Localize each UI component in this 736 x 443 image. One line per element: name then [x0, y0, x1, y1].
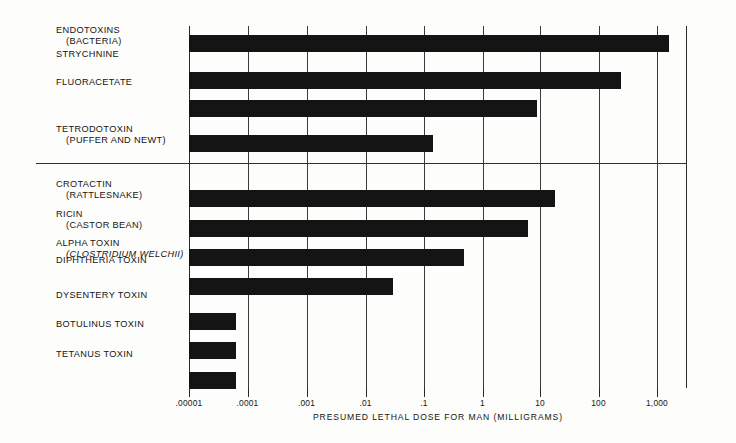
x-ticklabel-2: .001 — [298, 398, 315, 408]
x-ticklabel-3: .01 — [359, 398, 371, 408]
x-ticklabel-1: .0001 — [237, 398, 259, 408]
x-tick-7 — [599, 388, 600, 397]
bar-alpha-toxin — [189, 249, 464, 266]
x-tick-0 — [189, 388, 190, 397]
group-divider-line — [36, 163, 687, 164]
x-ticklabel-7: 100 — [591, 398, 606, 408]
bar-tetanus-toxin — [189, 372, 236, 389]
x-tick-6 — [540, 388, 541, 397]
category-label-column: ENDOTOXINS(BACTERIA)STRYCHNINEFLUORACETA… — [0, 0, 186, 443]
x-tick-4 — [424, 388, 425, 397]
plot-area — [189, 26, 687, 388]
x-tick-1 — [248, 388, 249, 397]
x-tick-2 — [307, 388, 308, 397]
x-ticklabel-6: 10 — [535, 398, 545, 408]
x-ticklabel-0: .00001 — [176, 398, 203, 408]
x-axis-tick-group — [189, 388, 687, 400]
bar-ricin — [189, 220, 528, 237]
bar-fluoracetate — [189, 100, 537, 117]
x-tick-8 — [657, 388, 658, 397]
gridline-1000 — [657, 26, 658, 388]
bar-strychnine — [189, 72, 621, 89]
bar-tetrodotoxin — [189, 135, 433, 152]
x-tick-5 — [483, 388, 484, 397]
x-axis-title: PRESUMED LETHAL DOSE FOR MAN (MILLIGRAMS… — [189, 412, 687, 422]
bar-diphtheria-toxin — [189, 278, 393, 295]
bar-crotactin — [189, 190, 555, 207]
x-ticklabel-4: .1 — [420, 398, 427, 408]
x-ticklabel-8: 1,000 — [646, 398, 668, 408]
x-ticklabel-5: 1 — [480, 398, 485, 408]
plot-right-border — [686, 26, 687, 388]
toxin-lethal-dose-bar-chart: ENDOTOXINS(BACTERIA)STRYCHNINEFLUORACETA… — [0, 0, 736, 443]
bar-endotoxins — [189, 35, 669, 52]
x-tick-3 — [366, 388, 367, 397]
bar-dysentery-toxin — [189, 313, 236, 330]
bar-botulinus-toxin — [189, 342, 236, 359]
